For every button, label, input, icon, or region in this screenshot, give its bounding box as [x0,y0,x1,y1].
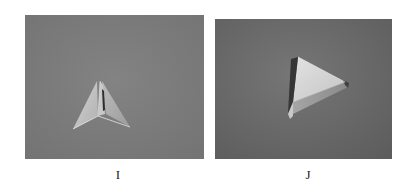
panel-label-i: I [103,168,133,182]
photo-panel-j [215,19,392,159]
photo-panel-i [25,15,204,159]
pyramid-image-i [25,15,204,159]
panel-label-j: J [293,168,323,182]
pyramid-image-j [215,19,392,159]
